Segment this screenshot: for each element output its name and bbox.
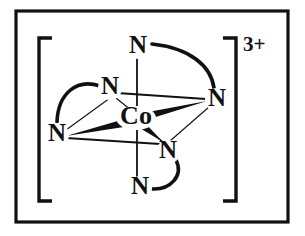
atom-label-n-lower-left: N	[48, 119, 66, 146]
chelate-arc-top-right	[152, 44, 214, 88]
atom-label-n-lower-inner: N	[159, 136, 177, 163]
atom-label-group: N N N N N N Co	[45, 31, 229, 200]
complex-ion-structure-diagram: 3+	[0, 0, 305, 236]
edge-upper-left-to-right	[117, 93, 206, 99]
atom-label-n-upper-left: N	[101, 72, 119, 99]
figure-canvas: 3+	[0, 0, 305, 236]
atom-label-n-right: N	[208, 84, 226, 111]
edge-lower-left-to-lower-inner	[66, 138, 160, 144]
right-bracket	[223, 38, 236, 201]
chelate-arc-left	[57, 84, 100, 122]
atom-label-metal-center: Co	[120, 101, 152, 130]
chelate-arc-bottom	[152, 160, 178, 189]
atom-label-n-top: N	[129, 31, 147, 58]
atom-label-n-bottom: N	[131, 172, 149, 199]
charge-superscript: 3+	[243, 32, 265, 56]
